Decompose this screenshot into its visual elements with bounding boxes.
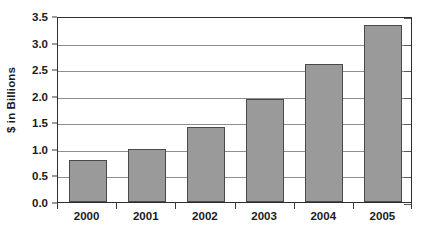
x-axis-tick-label: 2000 <box>74 210 100 222</box>
x-axis-tick-label: 2005 <box>370 210 396 222</box>
x-axis-tick-mark <box>353 203 354 209</box>
bars-group <box>58 18 411 202</box>
y-axis-tick-mark <box>52 96 57 97</box>
y-axis-title: $ in Billions <box>0 0 22 200</box>
x-axis-tick-label: 2003 <box>251 210 277 222</box>
x-axis-tick-mark <box>57 203 58 209</box>
x-axis-tick-mark <box>175 203 176 209</box>
y-axis-tick-mark <box>52 43 57 44</box>
bar <box>364 25 402 202</box>
bar <box>246 99 284 202</box>
x-axis-tick-label: 2001 <box>133 210 159 222</box>
x-axis-tick-label: 2004 <box>310 210 336 222</box>
y-axis-tick-label: 0.0 <box>32 197 48 209</box>
y-axis-tick-label: 1.5 <box>32 117 48 129</box>
y-axis-tick-label: 0.5 <box>32 170 48 182</box>
y-axis-tick-mark <box>52 176 57 177</box>
bar <box>305 64 343 202</box>
y-axis-tick-labels: 0.00.51.01.52.02.53.03.5 <box>20 17 52 203</box>
x-axis-tick-mark <box>294 203 295 209</box>
y-axis-title-text: $ in Billions <box>5 67 17 133</box>
y-axis-tick-label: 2.5 <box>32 64 48 76</box>
y-axis-tick-label: 3.0 <box>32 38 48 50</box>
y-axis-tick-mark <box>52 70 57 71</box>
y-axis-tick-mark <box>52 203 57 204</box>
y-axis-tick-label: 1.0 <box>32 144 48 156</box>
y-axis-tick-mark <box>52 123 57 124</box>
bar <box>128 149 166 202</box>
x-axis-tick-label: 2002 <box>192 210 218 222</box>
bar-chart-figure: $ in Billions 0.00.51.01.52.02.53.03.5 2… <box>0 0 424 237</box>
bar <box>69 160 107 203</box>
y-axis-tick-label: 2.0 <box>32 91 48 103</box>
y-axis-tick-mark <box>52 17 57 18</box>
x-axis-tick-mark <box>116 203 117 209</box>
bar <box>187 127 225 202</box>
x-axis-tick-mark <box>411 203 412 209</box>
plot-area <box>57 17 412 203</box>
y-axis-tick-mark <box>52 149 57 150</box>
x-axis-tick-labels: 200020012002200320042005 <box>57 210 412 232</box>
x-axis-tick-mark <box>235 203 236 209</box>
x-axis-tick-marks <box>57 203 412 210</box>
y-axis-tick-label: 3.5 <box>32 11 48 23</box>
